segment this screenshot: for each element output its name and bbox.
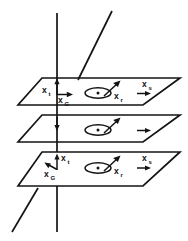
- bottom-plane-xr-label: x: [114, 166, 119, 176]
- bottom-plane-xr-sublabel: r: [121, 172, 124, 178]
- middle-plane-group: [18, 115, 180, 142]
- bottom-plane-xs-sublabel: s: [149, 159, 153, 165]
- top-plane-xt-label: x: [42, 85, 47, 95]
- diagonal-reference-line-bottom: [12, 188, 38, 232]
- figure-canvas: x t x G x r: [0, 0, 188, 241]
- top-plane-xs-vector: [137, 91, 151, 96]
- top-plane-xr-sublabel: r: [121, 97, 124, 103]
- bottom-plane-xt-sublabel: t: [68, 159, 70, 165]
- bottom-plane-xs-vector: [137, 165, 151, 170]
- top-plane-xg-label: x: [58, 95, 63, 105]
- bottom-plane-xg-sublabel: G: [51, 175, 56, 181]
- top-plane-xs-sublabel: s: [149, 85, 153, 91]
- top-plane-xs-label: x: [142, 79, 147, 89]
- top-plane-xt-vector: [54, 78, 59, 95]
- middle-plane-diagonal-vector: [104, 118, 121, 134]
- top-plane-group: x t x G x r: [18, 78, 180, 107]
- bottom-plane-xt-label: x: [61, 153, 66, 163]
- diagonal-reference-line-top: [78, 11, 112, 80]
- reference-lines-group: [12, 11, 112, 232]
- bottom-plane-xt-vector: [54, 154, 59, 171]
- middle-plane-down-vector: [54, 117, 59, 131]
- bottom-plane-group: x t x G x r: [18, 152, 180, 186]
- top-plane-xg-sublabel: G: [65, 101, 70, 107]
- diagram-svg: x t x G x r: [0, 0, 188, 241]
- middle-plane-outline: [18, 115, 180, 142]
- top-plane-xr-label: x: [114, 91, 119, 101]
- bottom-plane-xg-label: x: [44, 169, 49, 179]
- bottom-plane-xs-label: x: [142, 153, 147, 163]
- middle-plane-horizontal-vector: [137, 128, 151, 133]
- top-plane-xt-sublabel: t: [49, 91, 51, 97]
